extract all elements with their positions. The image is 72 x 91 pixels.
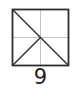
half-diagonal-line	[13, 38, 41, 66]
figure-number-label: 9	[0, 66, 72, 88]
diagram-figure: 9	[0, 0, 72, 91]
